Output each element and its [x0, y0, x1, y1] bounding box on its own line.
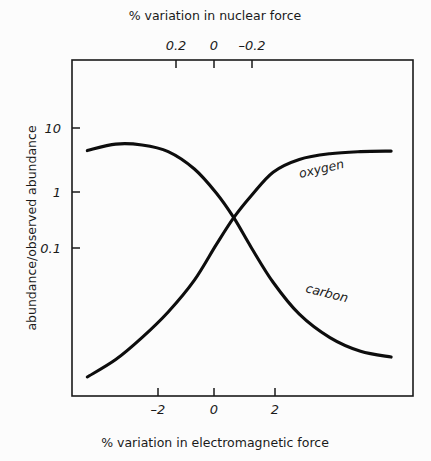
- chart-figure: % variation in nuclear force 0.2 0 –0.2 …: [0, 0, 431, 461]
- bottom-axis-title: % variation in electromagnetic force: [101, 435, 329, 450]
- bottom-tick-label-1: 0: [210, 402, 218, 417]
- y-tick-label-0: 10: [44, 121, 61, 136]
- bottom-tick-label-2: 2: [271, 402, 279, 417]
- y-tick-label-1: 1: [53, 185, 61, 200]
- bottom-tick-label-0: –2: [151, 402, 166, 417]
- y-axis-title: abundance/observed abundance: [24, 125, 39, 330]
- top-tick-label-2: –0.2: [238, 38, 265, 53]
- y-tick-label-2: 0.1: [40, 241, 61, 256]
- top-tick-label-1: 0: [210, 38, 218, 53]
- figure-background: [0, 0, 431, 461]
- top-axis-title: % variation in nuclear force: [129, 8, 302, 23]
- top-tick-label-0: 0.2: [166, 38, 187, 53]
